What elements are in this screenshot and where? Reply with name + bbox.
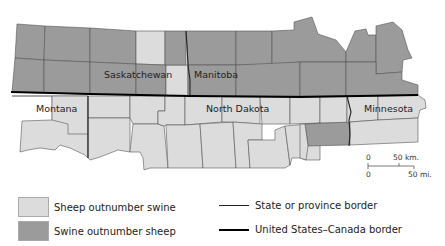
region-man-n4 (346, 29, 376, 62)
region-man-s3 (300, 62, 346, 97)
region-sask-nw (15, 24, 45, 60)
region-nd-13 (290, 96, 320, 124)
region-mn-3 (350, 118, 418, 145)
region-man-n3 (272, 17, 346, 65)
scale-km-zero: 0 (366, 153, 371, 162)
region-border-strip (165, 31, 186, 65)
legend-label-swine: Swine outnumber sheep (54, 226, 176, 237)
region-man-s2 (236, 62, 300, 97)
region-man-n1 (186, 31, 236, 65)
scale-mi-label: 50 mi. (408, 170, 432, 179)
canada-regions (12, 17, 418, 97)
scale-mi-zero: 0 (366, 170, 371, 179)
region-sask-sw (12, 58, 44, 93)
scale-km-label: 50 km. (393, 153, 419, 162)
legend-label-national-border: United States–Canada border (255, 224, 402, 235)
label-montana: Montana (36, 103, 77, 114)
thick-line-icon (219, 229, 249, 231)
sheep-swatch (18, 197, 49, 217)
region-man-n2 (236, 31, 272, 65)
region-nd-2 (88, 118, 130, 160)
legend-item-swine: Swine outnumber sheep (18, 221, 176, 241)
legend-item-sheep: Sheep outnumber swine (18, 197, 176, 217)
region-nd-7 (166, 124, 203, 168)
region-nd-swine (305, 122, 350, 146)
label-north-dakota: North Dakota (206, 103, 269, 114)
label-manitoba: Manitoba (194, 69, 238, 80)
thin-line-icon (219, 205, 249, 206)
region-nd-15 (320, 96, 347, 123)
region-nd-1 (88, 96, 130, 118)
legend-label-state-border: State or province border (255, 200, 377, 211)
region-nd-4 (130, 124, 168, 170)
scale-bar: 0 50 km. 0 50 mi. (366, 153, 432, 179)
label-minnesota: Minnesota (364, 103, 413, 114)
region-man-ne (376, 22, 412, 74)
region-nd-8 (200, 122, 236, 168)
region-sask-s1 (44, 60, 90, 94)
legend-label-sheep: Sheep outnumber swine (54, 202, 176, 213)
region-sask-n2 (90, 28, 136, 64)
region-sask-n1 (44, 26, 90, 62)
swine-swatch (18, 221, 49, 241)
legend-item-state-border: State or province border (219, 200, 377, 211)
legend-item-national-border: United States–Canada border (219, 224, 402, 235)
region-sask-n-light (136, 31, 165, 65)
label-saskatchewan: Saskatchewan (104, 69, 172, 80)
